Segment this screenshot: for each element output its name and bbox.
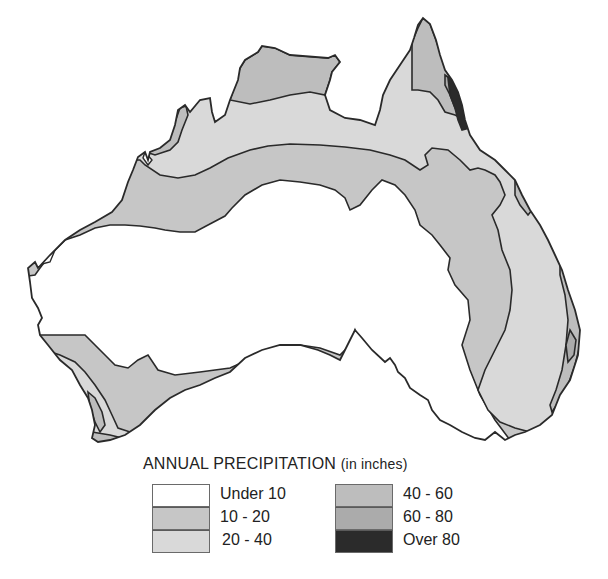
legend-label: 20 - 40 (222, 531, 272, 549)
legend-swatch (335, 530, 393, 553)
legend-swatch (335, 484, 393, 507)
legend-swatch (152, 484, 210, 507)
legend-column-left: Under 10 10 - 20 20 - 40 (152, 484, 312, 553)
legend-label: 10 - 20 (220, 508, 270, 526)
legend-title-text: ANNUAL PRECIPITATION (143, 455, 336, 472)
legend-item-under-10: Under 10 (152, 484, 312, 507)
legend-item-20-40: 20 - 40 (152, 530, 312, 553)
legend-label: Over 80 (403, 531, 460, 549)
legend-label: 60 - 80 (403, 508, 453, 526)
legend-item-10-20: 10 - 20 (152, 507, 312, 530)
legend-title: ANNUAL PRECIPITATION (in inches) (143, 455, 408, 473)
legend-swatch (152, 530, 210, 553)
legend-item-60-80: 60 - 80 (335, 507, 495, 530)
legend-item-over-80: Over 80 (335, 530, 495, 553)
legend-column-right: 40 - 60 60 - 80 Over 80 (335, 484, 495, 553)
legend-unit: (in inches) (341, 456, 408, 472)
legend-label: 40 - 60 (403, 485, 453, 503)
legend-swatch (152, 507, 210, 530)
legend-item-40-60: 40 - 60 (335, 484, 495, 507)
australia-precipitation-map (0, 0, 608, 450)
legend-swatch (335, 507, 393, 530)
legend-label: Under 10 (220, 485, 286, 503)
